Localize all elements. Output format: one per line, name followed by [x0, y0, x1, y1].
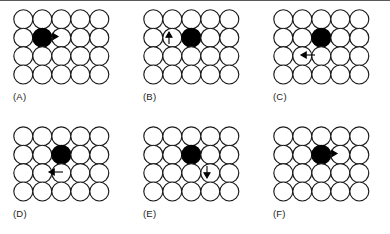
panel-grid: (A)(B)(C)(D)(E)(F) — [0, 1, 390, 234]
open-circle — [90, 28, 109, 47]
open-circle — [220, 182, 239, 201]
open-circle — [14, 65, 33, 84]
open-circle — [201, 28, 220, 47]
open-circle — [14, 182, 33, 201]
open-circle — [293, 10, 312, 29]
open-circle — [14, 28, 33, 47]
open-circle — [312, 65, 331, 84]
circle-array-b — [143, 9, 243, 87]
open-circle — [220, 127, 239, 146]
circle-array-c — [273, 9, 373, 87]
circle-array-f — [273, 126, 373, 204]
open-circle — [220, 65, 239, 84]
open-circle — [220, 10, 239, 29]
open-circle — [331, 127, 350, 146]
open-circle — [182, 127, 201, 146]
open-circle — [90, 65, 109, 84]
circle-array-d — [13, 126, 113, 204]
open-circle — [350, 182, 369, 201]
open-circle — [201, 10, 220, 29]
open-circle — [331, 47, 350, 66]
open-circle — [331, 10, 350, 29]
open-circle — [182, 182, 201, 201]
open-circle — [182, 164, 201, 183]
panel-label-a: (A) — [13, 91, 26, 103]
open-circle — [350, 145, 369, 164]
open-circle — [201, 65, 220, 84]
open-circle — [163, 145, 182, 164]
open-circle — [144, 28, 163, 47]
open-circle — [90, 164, 109, 183]
panel-b: (B) — [130, 1, 260, 118]
open-circle — [220, 28, 239, 47]
open-circle — [274, 65, 293, 84]
open-circle — [90, 10, 109, 29]
open-circle — [293, 182, 312, 201]
open-circle — [33, 127, 52, 146]
open-circle — [33, 10, 52, 29]
open-circle — [90, 127, 109, 146]
open-circle — [14, 10, 33, 29]
open-circle — [201, 127, 220, 146]
open-circle — [52, 182, 71, 201]
open-circle — [71, 164, 90, 183]
open-circle — [331, 65, 350, 84]
open-circle — [220, 145, 239, 164]
panel-label-c: (C) — [273, 91, 287, 103]
open-circle — [331, 182, 350, 201]
filled-circle — [182, 28, 201, 47]
open-circle — [293, 65, 312, 84]
open-circle — [144, 164, 163, 183]
open-circle — [71, 182, 90, 201]
open-circle — [144, 10, 163, 29]
open-circle — [33, 182, 52, 201]
open-circle — [33, 65, 52, 84]
open-circle — [90, 145, 109, 164]
open-circle — [144, 47, 163, 66]
open-circle — [71, 145, 90, 164]
open-circle — [201, 182, 220, 201]
open-circle — [14, 164, 33, 183]
filled-circle — [33, 28, 52, 47]
open-circle — [274, 145, 293, 164]
open-circle — [163, 164, 182, 183]
open-circle — [90, 47, 109, 66]
open-circle — [182, 65, 201, 84]
open-circle — [312, 164, 331, 183]
open-circle — [71, 65, 90, 84]
open-circle — [350, 28, 369, 47]
open-circle — [220, 164, 239, 183]
open-circle — [33, 164, 52, 183]
panel-e: (E) — [130, 118, 260, 234]
open-circle — [33, 47, 52, 66]
open-circle — [201, 145, 220, 164]
open-circle — [71, 127, 90, 146]
filled-circle — [52, 145, 71, 164]
open-circle — [274, 10, 293, 29]
open-circle — [274, 182, 293, 201]
circle-array-e — [143, 126, 243, 204]
open-circle — [312, 127, 331, 146]
panel-label-b: (B) — [143, 91, 156, 103]
filled-circle — [312, 145, 331, 164]
open-circle — [350, 47, 369, 66]
open-circle — [33, 145, 52, 164]
open-circle — [274, 164, 293, 183]
open-circle — [144, 182, 163, 201]
open-circle — [71, 28, 90, 47]
open-circle — [274, 127, 293, 146]
panel-c: (C) — [260, 1, 390, 118]
open-circle — [71, 10, 90, 29]
open-circle — [52, 10, 71, 29]
open-circle — [274, 47, 293, 66]
open-circle — [312, 10, 331, 29]
open-circle — [144, 145, 163, 164]
panel-a: (A) — [0, 1, 130, 118]
filled-circle — [312, 28, 331, 47]
open-circle — [14, 127, 33, 146]
open-circle — [350, 164, 369, 183]
panel-label-f: (F) — [273, 208, 286, 220]
open-circle — [274, 28, 293, 47]
open-circle — [331, 164, 350, 183]
open-circle — [293, 164, 312, 183]
